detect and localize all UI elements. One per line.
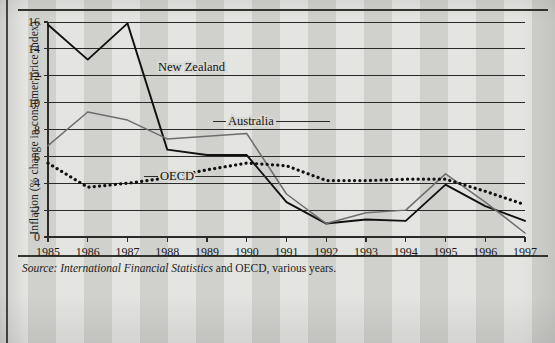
x-tick-labels: 1985198619871988198919901991199219931994… [36, 245, 537, 259]
series-label-australia: Australia [228, 114, 274, 128]
source-lead: Source: [22, 262, 57, 274]
series-line-oecd [48, 163, 525, 205]
x-tick-label: 1997 [513, 245, 537, 259]
series-lines [48, 23, 525, 233]
x-tick-label: 1994 [394, 245, 418, 259]
y-tick-label: 14 [28, 42, 40, 56]
y-tick-label: 16 [28, 15, 40, 29]
y-tick-label: 8 [34, 123, 40, 137]
gridlines [48, 22, 525, 237]
x-tick-label: 1987 [116, 245, 140, 259]
y-tick-label: 12 [28, 69, 40, 83]
y-tick-label: 10 [28, 96, 40, 110]
y-tick-label: 4 [34, 176, 40, 190]
x-tick-label: 1995 [434, 245, 458, 259]
series-line-australia [48, 112, 525, 233]
y-tick-label: 2 [34, 203, 40, 217]
y-axis [44, 22, 48, 237]
inflation-line-chart: 0246810121416 19851986198719881989199019… [0, 0, 555, 343]
y-tick-label: 6 [34, 150, 40, 164]
x-axis [48, 237, 525, 242]
x-tick-label: 1996 [473, 245, 497, 259]
x-tick-label: 1986 [76, 245, 100, 259]
x-tick-label: 1993 [354, 245, 378, 259]
x-tick-label: 1990 [235, 245, 259, 259]
y-tick-label: 0 [34, 230, 40, 244]
y-tick-labels: 0246810121416 [28, 15, 40, 244]
x-tick-label: 1989 [195, 245, 219, 259]
source-remainder: and OECD, various years. [213, 262, 336, 274]
series-label-new-zealand: New Zealand [158, 60, 226, 74]
x-tick-label: 1991 [275, 245, 299, 259]
source-note: Source: International Financial Statisti… [22, 262, 336, 274]
x-tick-label: 1988 [155, 245, 179, 259]
series-label-oecd: OECD [160, 169, 194, 183]
x-tick-label: 1985 [36, 245, 60, 259]
x-tick-label: 1992 [314, 245, 338, 259]
source-publication-title: International Financial Statistics [60, 262, 213, 274]
figure-page: Inflation (% change in consumer price in… [0, 0, 555, 343]
